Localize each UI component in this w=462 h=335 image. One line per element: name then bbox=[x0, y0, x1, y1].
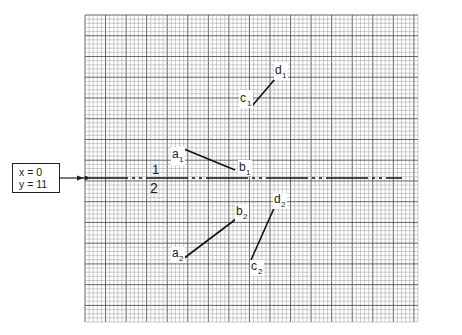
label-letter: b bbox=[236, 204, 243, 218]
graph-paper-diagram: 1 2 c 1 d 1 a 1 bbox=[0, 0, 462, 335]
label-a1: a 1 bbox=[171, 147, 185, 165]
label-letter: c bbox=[251, 259, 257, 273]
label-a2: a 2 bbox=[171, 246, 185, 263]
label-letter: c bbox=[240, 91, 246, 105]
label-letter: a bbox=[172, 147, 179, 161]
region-label-2: 2 bbox=[150, 180, 158, 196]
label-letter: d bbox=[275, 63, 282, 77]
label-subscript: 1 bbox=[247, 99, 252, 108]
entry-arrow-head-icon bbox=[77, 176, 84, 181]
label-subscript: 2 bbox=[281, 200, 286, 209]
segments: c 1 d 1 a 1 b 1 bbox=[171, 62, 288, 276]
label-d2: d 2 bbox=[273, 192, 287, 209]
label-letter: b bbox=[239, 160, 246, 174]
label-subscript: 2 bbox=[258, 267, 263, 276]
label-subscript: 1 bbox=[179, 155, 184, 164]
label-subscript: 1 bbox=[246, 168, 251, 177]
label-subscript: 2 bbox=[243, 212, 248, 221]
label-subscript: 2 bbox=[179, 254, 184, 263]
segment-c2-d2: c 2 d 2 bbox=[250, 192, 287, 276]
label-b1: b 1 bbox=[238, 160, 252, 177]
label-c2: c 2 bbox=[250, 259, 264, 276]
label-letter: d bbox=[274, 192, 281, 206]
label-letter: a bbox=[172, 246, 179, 260]
label-subscript: 1 bbox=[282, 71, 287, 80]
label-b2: b 2 bbox=[235, 204, 249, 221]
origin-dot bbox=[84, 176, 88, 180]
region-label-1: 1 bbox=[152, 162, 159, 177]
label-c1: c 1 bbox=[239, 90, 253, 108]
label-d1: d 1 bbox=[274, 62, 288, 80]
